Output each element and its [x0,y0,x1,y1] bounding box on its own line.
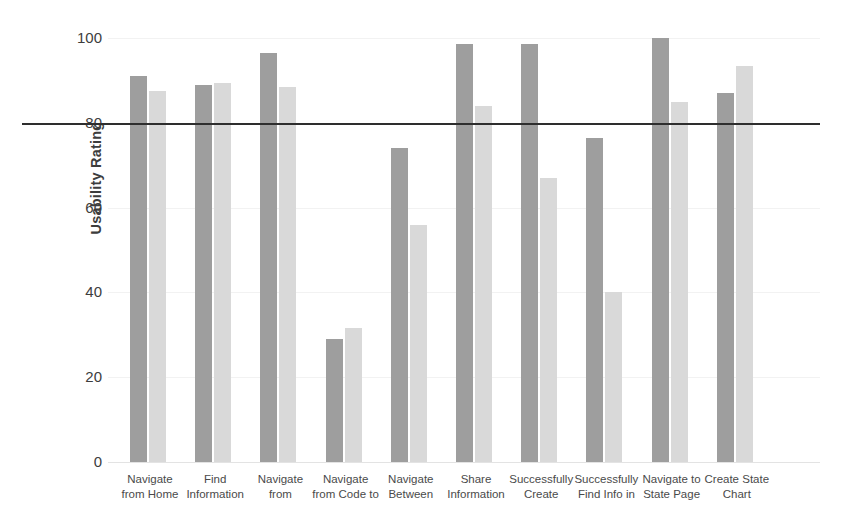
x-label-line: Navigate [243,472,317,487]
y-tick-20: 20 [60,369,102,384]
x-label-1: FindInformation [178,472,252,501]
x-label-7: SuccessfullyFind Info in [569,472,643,501]
bar-group [456,38,496,462]
y-tick-40: 40 [60,284,102,299]
bar-group [717,38,757,462]
x-label-5: ShareInformation [439,472,513,501]
bar [605,292,622,462]
bar-group [195,38,235,462]
plot-area [108,38,820,462]
x-label-line: Navigate [113,472,187,487]
x-label-line: Information [439,487,513,502]
bar [260,53,277,462]
x-label-4: NavigateBetween [374,472,448,501]
y-tick-100: 100 [60,30,102,45]
x-label-line: Between [374,487,448,502]
x-label-line: Find [178,472,252,487]
x-axis-category-labels: Navigatefrom HomeFindInformationNavigate… [108,472,820,524]
x-label-line: Chart [700,487,774,502]
x-label-line: from [243,487,317,502]
bar-group [130,38,170,462]
bar [717,93,734,462]
bar [149,91,166,462]
bar-group [260,38,300,462]
x-label-8: Navigate toState Page [635,472,709,501]
bar [586,138,603,462]
y-axis-tick-labels: 020406080100 [46,0,102,531]
x-label-line: from Home [113,487,187,502]
x-label-line: Create State [700,472,774,487]
bar-group [586,38,626,462]
x-label-3: Navigatefrom Code to [309,472,383,501]
x-label-line: Find Info in [569,487,643,502]
threshold-line-80 [22,123,820,125]
bar [279,87,296,462]
bar-group [521,38,561,462]
bar [410,225,427,462]
x-label-9: Create StateChart [700,472,774,501]
bar-group [326,38,366,462]
gridline-0 [108,462,820,463]
bar [195,85,212,462]
bar [326,339,343,462]
bar [736,66,753,462]
y-tick-60: 60 [60,200,102,215]
x-label-line: Share [439,472,513,487]
bar [540,178,557,462]
x-label-line: Navigate to [635,472,709,487]
x-label-0: Navigatefrom Home [113,472,187,501]
bar-group [652,38,692,462]
bar [521,44,538,462]
x-label-line: Navigate [374,472,448,487]
x-label-6: SuccessfullyCreate [504,472,578,501]
x-label-line: Create [504,487,578,502]
x-label-line: Successfully [569,472,643,487]
x-label-line: Information [178,487,252,502]
x-label-line: Successfully [504,472,578,487]
bar-group [391,38,431,462]
bar [345,328,362,462]
bar [130,76,147,462]
x-label-line: State Page [635,487,709,502]
bar [475,106,492,462]
x-label-2: Navigatefrom [243,472,317,501]
bar [391,148,408,462]
x-label-line: Navigate [309,472,383,487]
y-tick-0: 0 [60,454,102,469]
x-label-line: from Code to [309,487,383,502]
bar [652,38,669,462]
bar [671,102,688,462]
usability-rating-bar-chart: Usability Rating 020406080100 Navigatefr… [0,0,852,531]
bar [456,44,473,462]
bar [214,83,231,462]
